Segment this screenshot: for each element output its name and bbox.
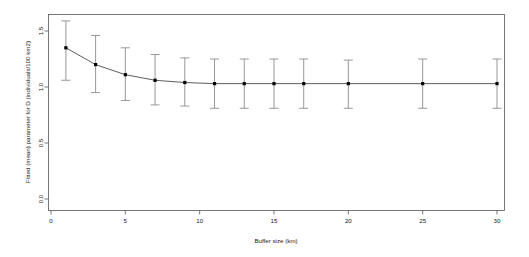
x-axis-title: Buffer size (km) xyxy=(254,237,297,244)
data-point-marker xyxy=(272,82,275,85)
data-point-marker xyxy=(64,46,67,49)
chart-figure: 0.00.51.01.5 051015202530 Buffer size (k… xyxy=(0,0,529,257)
data-point-marker xyxy=(94,63,97,66)
y-axis-title: Fitted (mean) parameter for D (individua… xyxy=(24,41,31,183)
x-tick-label: 5 xyxy=(124,217,128,224)
x-tick-label: 30 xyxy=(494,217,501,224)
data-point-marker xyxy=(243,82,246,85)
x-tick-label: 0 xyxy=(49,217,53,224)
y-tick-label: 1.5 xyxy=(37,26,44,35)
chart-background xyxy=(0,0,529,257)
x-tick-label: 20 xyxy=(345,217,352,224)
data-point-marker xyxy=(183,81,186,84)
x-tick-label: 10 xyxy=(196,217,203,224)
x-tick-label: 15 xyxy=(271,217,278,224)
data-point-marker xyxy=(213,82,216,85)
y-tick-label: 1.0 xyxy=(37,82,44,91)
data-point-marker xyxy=(124,73,127,76)
x-tick-label: 25 xyxy=(419,217,426,224)
scatter-errorbar-plot: 0.00.51.01.5 051015202530 Buffer size (k… xyxy=(0,0,529,257)
y-tick-label: 0.5 xyxy=(37,138,44,147)
data-point-marker xyxy=(302,82,305,85)
data-point-marker xyxy=(153,79,156,82)
data-point-marker xyxy=(421,82,424,85)
data-point-marker xyxy=(347,82,350,85)
y-tick-label: 0.0 xyxy=(37,194,44,203)
data-point-marker xyxy=(495,82,498,85)
